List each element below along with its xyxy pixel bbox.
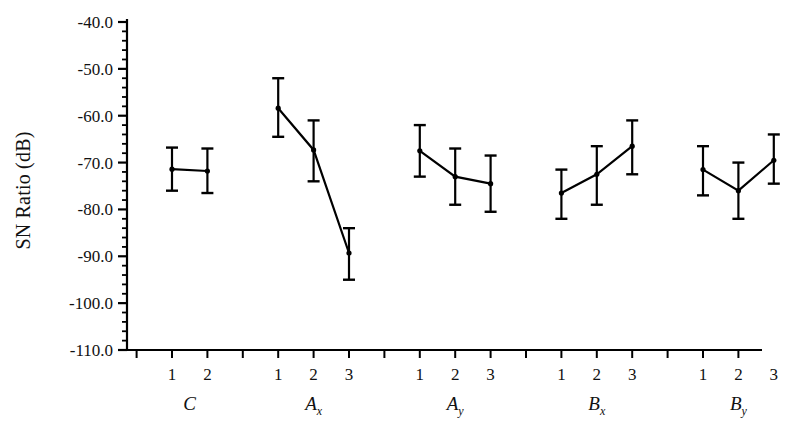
- x-axis-level-label: 1: [168, 365, 177, 384]
- x-axis-level-label: 2: [451, 365, 460, 384]
- y-axis-ticks: -40.0-50.0-60.0-70.0-80.0-90.0-100.0-110…: [69, 13, 127, 360]
- x-axis-level-label: 3: [345, 365, 354, 384]
- y-axis-label-container: SN Ratio (dB): [0, 0, 46, 380]
- y-axis-tick-label: -70.0: [78, 154, 113, 173]
- group-label-base: B: [588, 393, 600, 414]
- series-group: 123Bx: [555, 120, 638, 418]
- y-axis-tick-label: -60.0: [78, 107, 113, 126]
- series-group: 12C: [166, 148, 213, 414]
- data-point-marker: [559, 190, 564, 195]
- y-axis-tick-label: -40.0: [78, 13, 113, 32]
- x-axis-level-label: 1: [699, 365, 708, 384]
- x-axis-group-label: Ax: [303, 393, 323, 418]
- x-axis-level-label: 3: [770, 365, 779, 384]
- x-axis-group-label: By: [730, 393, 748, 418]
- data-point-marker: [594, 172, 599, 177]
- y-axis-tick-label: -110.0: [70, 341, 113, 360]
- x-axis-level-label: 1: [274, 365, 283, 384]
- data-point-marker: [346, 250, 351, 255]
- x-axis-ticks: [137, 350, 739, 358]
- plot-area: -40.0-50.0-60.0-70.0-80.0-90.0-100.0-110…: [0, 0, 804, 425]
- data-point-marker: [488, 181, 493, 186]
- group-label-base: A: [445, 393, 459, 414]
- data-point-marker: [736, 188, 741, 193]
- x-axis-level-label: 3: [628, 365, 637, 384]
- x-axis-group-label: C: [183, 393, 196, 414]
- axes: [127, 19, 762, 350]
- x-axis-level-label: 2: [734, 365, 743, 384]
- x-axis-group-label: Bx: [588, 393, 606, 418]
- x-axis-level-label: 2: [309, 365, 318, 384]
- x-axis-level-label: 1: [557, 365, 566, 384]
- chart-figure: SN Ratio (dB) -40.0-50.0-60.0-70.0-80.0-…: [0, 0, 804, 425]
- group-label-base: B: [730, 393, 742, 414]
- y-axis-tick-label: -50.0: [78, 60, 113, 79]
- x-axis-level-label: 1: [416, 365, 425, 384]
- x-axis-level-label: 3: [486, 365, 495, 384]
- data-point-marker: [771, 158, 776, 163]
- data-point-marker: [276, 106, 281, 111]
- series-group: 123By: [697, 134, 780, 418]
- data-point-marker: [169, 167, 174, 172]
- y-axis-tick-label: -100.0: [69, 294, 113, 313]
- group-label-subscript: y: [457, 404, 464, 418]
- y-axis-label: SN Ratio (dB): [12, 131, 35, 249]
- data-point-marker: [205, 168, 210, 173]
- data-point-marker: [311, 147, 316, 152]
- y-axis-tick-label: -80.0: [78, 200, 113, 219]
- series-group: 123Ax: [272, 78, 355, 418]
- group-label-subscript: x: [316, 404, 323, 418]
- x-axis-group-label: Ay: [445, 393, 465, 418]
- data-point-marker: [417, 148, 422, 153]
- x-axis-level-label: 2: [203, 365, 212, 384]
- x-axis-level-label: 2: [593, 365, 602, 384]
- y-axis-tick-label: -90.0: [78, 247, 113, 266]
- group-label-base: C: [183, 393, 196, 414]
- series-line: [172, 169, 207, 171]
- data-point-marker: [630, 144, 635, 149]
- data-point-marker: [700, 167, 705, 172]
- group-label-base: A: [303, 393, 317, 414]
- series-group: 123Ay: [414, 125, 497, 418]
- group-label-subscript: y: [741, 404, 748, 418]
- group-label-subscript: x: [599, 404, 606, 418]
- data-point-marker: [453, 174, 458, 179]
